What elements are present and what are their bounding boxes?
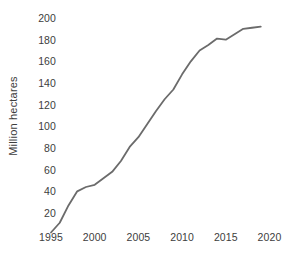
line-chart: Million hectares 20018016014012010080604…	[0, 0, 289, 260]
plot-area	[0, 0, 289, 260]
data-series-line	[51, 27, 261, 233]
